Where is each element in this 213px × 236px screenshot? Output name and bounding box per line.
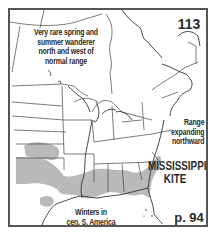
wanderer-note: Very rare spring and summer wanderer nor… — [24, 28, 109, 66]
plate-number: 113 — [176, 16, 202, 32]
range-expanding-note: Range expanding northward — [164, 118, 205, 147]
page-reference: p. 94 — [172, 210, 206, 225]
range-map-frame: 113 Very rare spring and summer wanderer… — [8, 8, 208, 227]
islands — [143, 209, 152, 217]
winter-note: Winters in cen. S. America — [61, 208, 121, 227]
species-name: MISSISSIPPI KITE — [148, 160, 202, 186]
